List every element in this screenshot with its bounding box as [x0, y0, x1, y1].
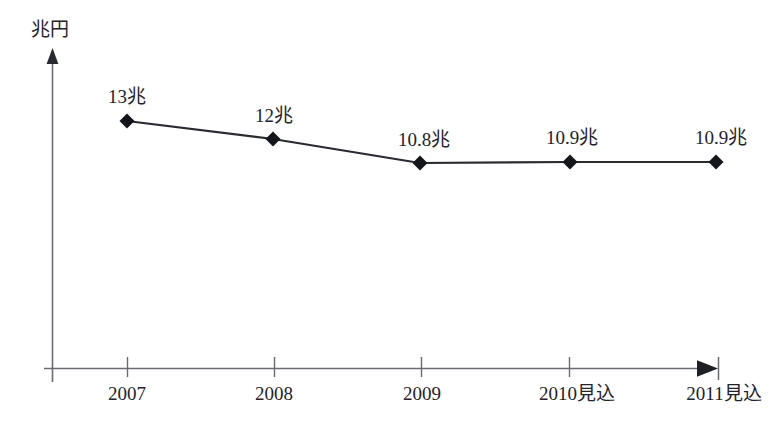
- data-point-label: 10.8兆: [398, 129, 450, 150]
- line-chart: 兆円 13兆 12兆 10.8兆 10.9兆 10.9兆 2007 2008 2…: [0, 0, 782, 441]
- x-axis-tick-label: 2008: [255, 383, 293, 404]
- y-axis-label: 兆円: [31, 19, 69, 40]
- chart-canvas: 兆円 13兆 12兆 10.8兆 10.9兆 10.9兆 2007 2008 2…: [0, 0, 782, 441]
- x-axis-tick-label: 2007: [108, 383, 146, 404]
- data-point-label: 13兆: [108, 86, 146, 107]
- data-point-label: 12兆: [255, 105, 293, 126]
- chart-background: [0, 0, 782, 441]
- x-axis-tick-label: 2011見込: [686, 383, 761, 404]
- data-point-label: 10.9兆: [546, 127, 598, 148]
- x-axis-tick-label: 2009: [403, 383, 441, 404]
- data-point-label: 10.9兆: [695, 127, 747, 148]
- x-axis-tick-label: 2010見込: [539, 383, 615, 404]
